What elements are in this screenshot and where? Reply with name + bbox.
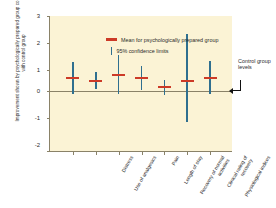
plot-area: Mean for psychologically prepared group … bbox=[49, 16, 232, 152]
legend-label-confidence: 95% confidence limits bbox=[116, 48, 168, 54]
y-tick-label-neg2: -2 bbox=[26, 142, 40, 148]
y-tick-2 bbox=[47, 43, 50, 44]
y-tick-label-3: 3 bbox=[26, 13, 40, 19]
mean-marker bbox=[66, 77, 79, 79]
blue-bar-icon bbox=[111, 47, 113, 55]
annotation-arrow-icon bbox=[229, 88, 233, 94]
y-tick-neg1 bbox=[47, 118, 50, 119]
mean-marker bbox=[89, 80, 102, 82]
y-tick-3 bbox=[47, 16, 50, 17]
mean-marker bbox=[135, 77, 148, 79]
y-tick-label-neg1: -1 bbox=[26, 115, 40, 121]
x-tick bbox=[96, 152, 97, 155]
chart-figure: Improvement shown by psychologically pre… bbox=[0, 0, 276, 208]
y-tick-label-0: 0 bbox=[26, 88, 40, 94]
x-tick bbox=[210, 152, 211, 155]
mean-marker bbox=[181, 80, 194, 82]
x-tick bbox=[73, 152, 74, 155]
legend-label-mean: Mean for psychologically prepared group bbox=[121, 37, 218, 43]
x-tick bbox=[119, 152, 120, 155]
y-tick-label-1: 1 bbox=[26, 67, 40, 73]
mean-marker bbox=[158, 86, 171, 88]
legend-item-mean: Mean for psychologically prepared group bbox=[106, 35, 218, 44]
x-tick bbox=[187, 152, 188, 155]
chart-legend: Mean for psychologically prepared group … bbox=[106, 35, 218, 57]
control-group-annotation: Control group levels bbox=[238, 58, 274, 71]
annotation-horizontal-line bbox=[233, 90, 241, 91]
legend-item-confidence: 95% confidence limits bbox=[106, 46, 218, 55]
mean-marker bbox=[204, 77, 217, 79]
red-dash-icon bbox=[106, 38, 117, 40]
x-tick bbox=[164, 152, 165, 155]
y-tick-1 bbox=[47, 70, 50, 71]
y-tick-neg2 bbox=[47, 151, 50, 152]
y-tick-label-2: 2 bbox=[26, 40, 40, 46]
mean-marker bbox=[112, 74, 125, 76]
zero-reference-line bbox=[50, 91, 232, 92]
x-tick bbox=[142, 152, 143, 155]
